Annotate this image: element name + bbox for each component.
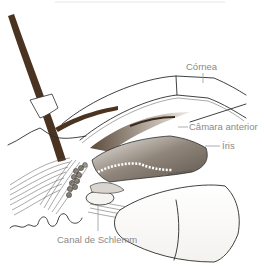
cornea-structure	[62, 76, 246, 143]
lens	[115, 185, 240, 262]
label-cornea: Córnea	[186, 61, 218, 72]
label-schlemm-canal: Canal de Schlemm	[57, 234, 137, 245]
ciliary-processes	[10, 214, 82, 228]
conjunctiva-line	[8, 128, 86, 145]
label-iris: Íris	[222, 140, 235, 151]
label-anterior-chamber: Câmara anterior	[189, 121, 258, 132]
eye-angle-diagram: Córnea Câmara anterior Íris Canal de Sch…	[0, 0, 264, 269]
